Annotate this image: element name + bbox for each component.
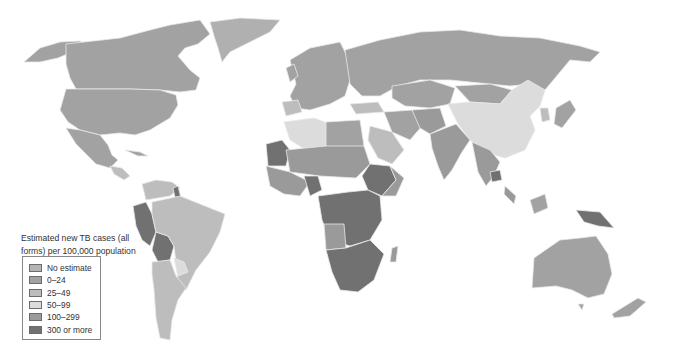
region-cambodia: [490, 170, 502, 182]
legend-title: Estimated new TB cases (all forms) per 1…: [21, 232, 181, 258]
region-europe: [290, 42, 350, 110]
legend: No estimate 0–24 25–49 50–99 100–299 300…: [22, 256, 101, 340]
legend-swatch: [29, 264, 42, 272]
region-sahel: [286, 146, 370, 178]
region-sumatra: [504, 186, 516, 204]
region-central-america: [110, 166, 130, 180]
world-map: [0, 0, 679, 350]
region-cuba: [125, 150, 148, 156]
legend-item-25-49: 25–49: [29, 287, 100, 299]
legend-swatch: [29, 276, 42, 284]
legend-swatch: [29, 301, 42, 309]
region-tasmania: [578, 304, 584, 310]
region-madagascar: [390, 246, 398, 262]
legend-swatch: [29, 326, 42, 334]
legend-swatch: [29, 289, 42, 297]
region-korea: [540, 108, 550, 122]
legend-label: No estimate: [47, 263, 92, 273]
region-australia: [532, 236, 612, 298]
legend-title-line1: Estimated new TB cases (all: [21, 232, 181, 245]
legend-label: 50–99: [47, 300, 70, 310]
legend-swatch: [29, 313, 42, 321]
legend-item-50-99: 50–99: [29, 299, 100, 311]
legend-item-100-299: 100–299: [29, 311, 100, 323]
legend-label: 0–24: [47, 275, 66, 285]
region-png: [576, 210, 614, 228]
region-usa: [60, 89, 178, 135]
region-egypt-libya: [326, 120, 364, 150]
region-central-asia: [392, 80, 455, 108]
legend-label: 300 or more: [47, 325, 92, 335]
legend-label: 100–299: [47, 312, 80, 322]
region-canada: [66, 20, 210, 92]
region-japan: [554, 100, 576, 128]
region-iberia: [282, 100, 302, 116]
region-new-zealand: [612, 298, 646, 318]
region-north-africa: [284, 118, 330, 150]
legend-item-no-estimate: No estimate: [29, 262, 100, 274]
legend-item-0-24: 0–24: [29, 274, 100, 286]
region-turkey: [350, 102, 384, 114]
region-borneo: [530, 194, 548, 214]
region-angola: [324, 224, 346, 250]
legend-item-300-plus: 300 or more: [29, 323, 100, 335]
region-greenland: [210, 18, 280, 62]
legend-label: 25–49: [47, 288, 70, 298]
region-nigeria: [304, 176, 322, 196]
